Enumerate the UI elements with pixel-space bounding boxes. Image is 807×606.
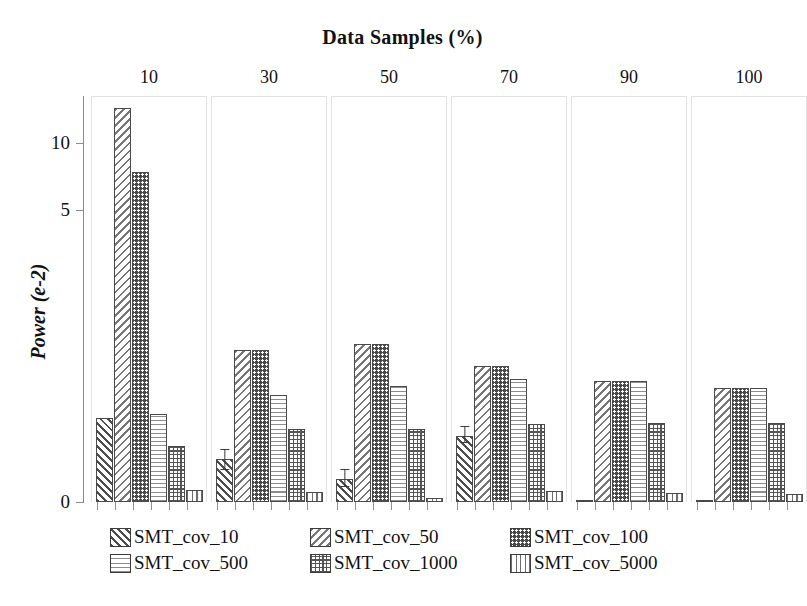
bar-SMT_cov_5000-10[interactable] <box>186 490 203 502</box>
error-bar-50 <box>344 469 345 487</box>
y-axis-label: Power (e-2) <box>27 212 50 412</box>
y-tick-10: 10 <box>76 143 84 144</box>
legend-item-SMT_cov_1000[interactable]: SMT_cov_1000 <box>310 552 510 574</box>
bars-container <box>572 97 686 502</box>
bar-group-90: 90 <box>571 96 687 502</box>
legend-item-SMT_cov_10[interactable]: SMT_cov_10 <box>110 526 310 548</box>
bar-SMT_cov_50-50[interactable] <box>354 344 371 502</box>
bar-group-70: 70 <box>451 96 567 502</box>
bar-group-100: 100 <box>691 96 807 502</box>
y-tick-label-0: 0 <box>61 491 71 513</box>
y-tick-label-10: 10 <box>51 132 70 154</box>
legend-row-2: SMT_cov_500SMT_cov_1000SMT_cov_5000 <box>110 550 710 576</box>
bar-SMT_cov_50-70[interactable] <box>474 366 491 502</box>
bar-SMT_cov_100-90[interactable] <box>612 381 629 502</box>
legend-swatch-icon-SMT_cov_5000 <box>510 554 531 573</box>
error-bar-30 <box>224 449 225 470</box>
chart-legend: SMT_cov_10SMT_cov_50SMT_cov_100SMT_cov_5… <box>110 524 710 576</box>
legend-swatch-icon-SMT_cov_50 <box>310 528 331 547</box>
bars-container <box>452 97 566 502</box>
bar-SMT_cov_500-70[interactable] <box>510 379 527 502</box>
bar-SMT_cov_1000-10[interactable] <box>168 446 185 502</box>
y-tick-label-5: 5 <box>61 199 71 221</box>
y-tick-0: 0 <box>76 502 84 503</box>
legend-label-SMT_cov_50: SMT_cov_50 <box>334 526 439 548</box>
legend-swatch-icon-SMT_cov_10 <box>110 528 131 547</box>
bar-SMT_cov_500-30[interactable] <box>270 395 287 502</box>
legend-label-SMT_cov_1000: SMT_cov_1000 <box>334 552 458 574</box>
legend-item-SMT_cov_50[interactable]: SMT_cov_50 <box>310 526 510 548</box>
legend-swatch-icon-SMT_cov_500 <box>110 554 131 573</box>
bar-SMT_cov_5000-100[interactable] <box>786 494 803 502</box>
x-tickrow-70 <box>452 502 566 511</box>
legend-swatch-icon-SMT_cov_1000 <box>310 554 331 573</box>
bars-container <box>92 97 206 502</box>
x-tickrow-50 <box>332 502 446 511</box>
y-tick-5: 5 <box>76 210 84 211</box>
bar-SMT_cov_5000-90[interactable] <box>666 493 683 502</box>
bar-group-50: 50 <box>331 96 447 502</box>
legend-swatch-icon-SMT_cov_100 <box>510 528 531 547</box>
legend-item-SMT_cov_500[interactable]: SMT_cov_500 <box>110 552 310 574</box>
bar-SMT_cov_10-30[interactable] <box>216 459 233 502</box>
bar-SMT_cov_50-90[interactable] <box>594 381 611 502</box>
legend-label-SMT_cov_500: SMT_cov_500 <box>134 552 248 574</box>
group-label-70: 70 <box>452 67 566 88</box>
bar-SMT_cov_100-70[interactable] <box>492 366 509 502</box>
group-label-100: 100 <box>692 67 806 88</box>
bar-group-30: 30 <box>211 96 327 502</box>
bar-SMT_cov_100-10[interactable] <box>132 172 149 502</box>
group-label-30: 30 <box>212 67 326 88</box>
bar-SMT_cov_10-50[interactable] <box>336 479 353 502</box>
bar-SMT_cov_50-30[interactable] <box>234 350 251 502</box>
chart-title: Data Samples (%) <box>0 26 805 49</box>
group-label-10: 10 <box>92 67 206 88</box>
bar-SMT_cov_10-70[interactable] <box>456 436 473 502</box>
x-tickrow-30 <box>212 502 326 511</box>
bar-SMT_cov_5000-70[interactable] <box>546 491 563 502</box>
bar-SMT_cov_1000-50[interactable] <box>408 429 425 502</box>
bars-container <box>212 97 326 502</box>
bar-SMT_cov_1000-30[interactable] <box>288 429 305 502</box>
bar-SMT_cov_100-100[interactable] <box>732 388 749 502</box>
x-tickrow-90 <box>572 502 686 511</box>
x-tickrow-10 <box>92 502 206 511</box>
bars-container <box>692 97 806 502</box>
error-bar-70 <box>464 426 465 443</box>
legend-item-SMT_cov_100[interactable]: SMT_cov_100 <box>510 526 710 548</box>
bar-SMT_cov_1000-70[interactable] <box>528 424 545 502</box>
plot-area: 0510 1030507090100 <box>83 96 793 502</box>
legend-label-SMT_cov_5000: SMT_cov_5000 <box>534 552 658 574</box>
bars-container <box>332 97 446 502</box>
bar-SMT_cov_1000-90[interactable] <box>648 423 665 502</box>
bar-group-10: 10 <box>91 96 207 502</box>
bar-SMT_cov_50-10[interactable] <box>114 108 131 502</box>
bar-SMT_cov_1000-100[interactable] <box>768 423 785 502</box>
bar-SMT_cov_50-100[interactable] <box>714 388 731 502</box>
legend-item-SMT_cov_5000[interactable]: SMT_cov_5000 <box>510 552 710 574</box>
bar-SMT_cov_10-10[interactable] <box>96 418 113 502</box>
group-label-90: 90 <box>572 67 686 88</box>
bar-SMT_cov_5000-30[interactable] <box>306 492 323 502</box>
bar-SMT_cov_500-100[interactable] <box>750 388 767 502</box>
bar-SMT_cov_500-90[interactable] <box>630 381 647 502</box>
x-tickrow-100 <box>692 502 806 511</box>
legend-row-1: SMT_cov_10SMT_cov_50SMT_cov_100 <box>110 524 710 550</box>
bar-SMT_cov_100-50[interactable] <box>372 344 389 502</box>
group-label-50: 50 <box>332 67 446 88</box>
legend-label-SMT_cov_10: SMT_cov_10 <box>134 526 239 548</box>
y-axis-line <box>83 96 84 502</box>
bar-SMT_cov_500-50[interactable] <box>390 386 407 502</box>
bar-SMT_cov_500-10[interactable] <box>150 414 167 502</box>
bar-SMT_cov_100-30[interactable] <box>252 350 269 502</box>
legend-label-SMT_cov_100: SMT_cov_100 <box>534 526 648 548</box>
